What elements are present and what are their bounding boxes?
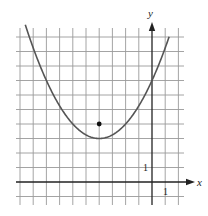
coordinate-plane: x y 1 1 (0, 0, 208, 216)
y-axis-label: y (147, 7, 153, 19)
y-unit-label: 1 (143, 162, 148, 173)
x-axis-arrow-icon (186, 179, 195, 185)
focus-point (97, 122, 102, 127)
grid-lines (16, 28, 184, 205)
axes (16, 22, 195, 205)
y-axis-arrow-icon (149, 22, 155, 31)
x-unit-label: 1 (163, 186, 168, 197)
x-axis-label: x (196, 176, 202, 188)
parabola-curve (25, 25, 169, 139)
